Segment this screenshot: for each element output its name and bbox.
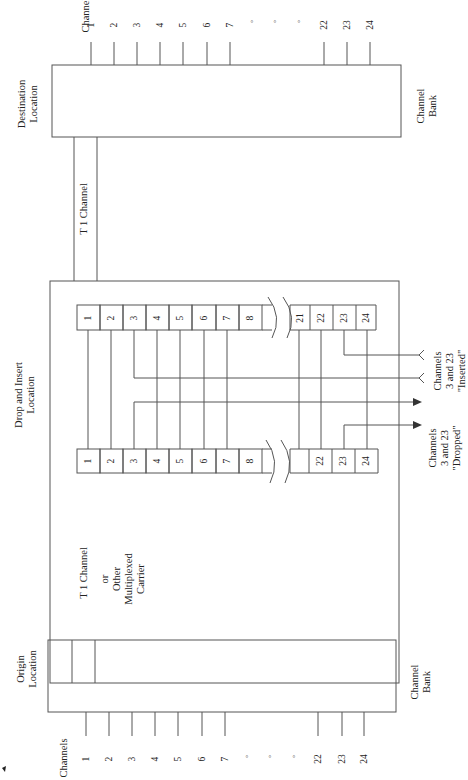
corner-mark	[2, 766, 6, 772]
insert-cell-2: 2	[106, 308, 116, 328]
destination-channel-bank-box	[52, 65, 401, 137]
drop-arrow-ch23	[413, 421, 422, 429]
dest-ch-1: 1	[86, 15, 96, 35]
origin-channels-label: Channels	[58, 733, 70, 780]
origin-channel-bank-box	[48, 640, 396, 712]
dest-ch-2: 2	[109, 15, 119, 35]
drop-cell-2: 2	[106, 451, 116, 471]
drop-insert-title: Drop and Insert Location	[13, 350, 37, 440]
drop-cell-23: 23	[338, 451, 348, 471]
destination-channel-ticks	[91, 42, 370, 65]
dest-ellipsis-3: °	[294, 19, 304, 27]
origin-title: Origin Location	[15, 644, 39, 694]
insert-path-ch3	[134, 330, 420, 378]
origin-ch-1: 1	[81, 749, 91, 769]
origin-ch-2: 2	[104, 749, 114, 769]
drop-path-ch23	[344, 425, 414, 449]
drop-cell-7: 7	[222, 451, 232, 471]
origin-ch-23: 23	[337, 749, 347, 769]
drop-cell-4: 4	[152, 451, 162, 471]
drop-cell-24: 24	[361, 451, 371, 471]
insert-cell-8: 8	[245, 308, 255, 328]
origin-ellipsis-2: °	[265, 754, 275, 762]
drop-cell-8: 8	[245, 451, 255, 471]
insert-cell-7: 7	[222, 308, 232, 328]
insert-cell-23: 23	[339, 308, 349, 328]
t1-upper-label: T 1 Channel	[78, 179, 90, 239]
origin-channel-ticks	[86, 712, 364, 736]
insert-path-ch23	[344, 330, 420, 355]
t1-lower-label: T 1 Channel	[78, 543, 90, 603]
drop-cell-5: 5	[175, 451, 185, 471]
dest-ch-22: 22	[319, 15, 329, 35]
drop-cell-6: 6	[199, 451, 209, 471]
origin-ellipsis-3: °	[289, 754, 299, 762]
drop-arrow-ch3	[413, 398, 422, 406]
insert-cell-24: 24	[361, 308, 371, 328]
origin-ch-6: 6	[197, 749, 207, 769]
insert-cell-21: 21	[295, 308, 305, 328]
drop-cell-1: 1	[83, 451, 93, 471]
insert-cell-5: 5	[175, 308, 185, 328]
drop-cell-3: 3	[129, 451, 139, 471]
origin-ellipsis-1: °	[242, 754, 252, 762]
insert-cell-22: 22	[316, 308, 326, 328]
dropped-label: Channels 3 and 23 "Dropped"	[427, 418, 463, 478]
insert-cell-1: 1	[83, 308, 93, 328]
origin-ch-5: 5	[173, 749, 183, 769]
dest-ch-7: 7	[225, 15, 235, 35]
drop-insert-box	[50, 281, 399, 683]
insert-cell-6: 6	[199, 308, 209, 328]
dest-ch-4: 4	[155, 15, 165, 35]
origin-ch-3: 3	[127, 749, 137, 769]
inserted-label: Channels 3 and 23 "Inserted"	[432, 341, 468, 401]
t1-lower-alt-label: or Other Multiplexed Carrier	[99, 544, 147, 614]
origin-ch-22: 22	[313, 749, 323, 769]
destination-bank-label: Channel Bank	[415, 81, 439, 131]
dest-ch-3: 3	[132, 15, 142, 35]
dest-ch-6: 6	[202, 15, 212, 35]
origin-ch-24: 24	[359, 749, 369, 769]
dest-ch-24: 24	[365, 15, 375, 35]
dest-ellipsis-1: °	[247, 19, 257, 27]
dest-ch-23: 23	[342, 15, 352, 35]
origin-bank-label: Channel Bank	[409, 657, 433, 707]
pass-through-wires	[88, 330, 367, 449]
dest-ch-5: 5	[178, 15, 188, 35]
destination-title: Destination Location	[16, 74, 40, 134]
origin-ch-4: 4	[150, 749, 160, 769]
insert-cell-4: 4	[152, 308, 162, 328]
origin-ch-7: 7	[220, 749, 230, 769]
dest-ellipsis-2: °	[270, 19, 280, 27]
drop-cell-22: 22	[315, 451, 325, 471]
insert-cell-3: 3	[129, 308, 139, 328]
